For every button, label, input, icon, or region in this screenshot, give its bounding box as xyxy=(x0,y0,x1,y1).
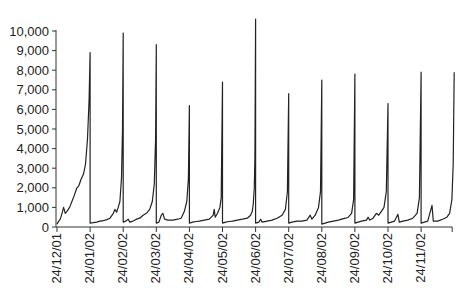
x-tick-label: 24/06/02 xyxy=(248,233,263,284)
y-tick-label: 3,000 xyxy=(16,161,49,176)
y-tick-label: 10,000 xyxy=(9,24,49,39)
y-tick-label: 2,000 xyxy=(16,180,49,195)
chart-svg: 01,0002,0003,0004,0005,0006,0007,0008,00… xyxy=(0,0,474,293)
x-tick-label: 24/04/02 xyxy=(181,233,196,284)
y-tick-label: 9,000 xyxy=(16,43,49,58)
y-tick-label: 7,000 xyxy=(16,82,49,97)
x-tick-label: 24/10/02 xyxy=(380,233,395,284)
y-tick-label: 0 xyxy=(42,220,49,235)
x-tick-label: 24/07/02 xyxy=(281,233,296,284)
x-tick-label: 24/03/02 xyxy=(148,233,163,284)
y-tick-label: 1,000 xyxy=(16,200,49,215)
x-tick-label: 24/11/02 xyxy=(413,233,428,283)
y-axis: 01,0002,0003,0004,0005,0006,0007,0008,00… xyxy=(9,24,56,235)
x-tick-label: 24/08/02 xyxy=(314,233,329,284)
x-tick-label: 24/09/02 xyxy=(347,233,362,284)
line-chart: 01,0002,0003,0004,0005,0006,0007,0008,00… xyxy=(0,0,474,293)
series-line xyxy=(57,19,454,224)
x-tick-label: 24/05/02 xyxy=(215,233,230,284)
y-tick-label: 6,000 xyxy=(16,102,49,117)
y-tick-label: 5,000 xyxy=(16,122,49,137)
x-tick-label: 24/01/02 xyxy=(82,233,97,284)
y-tick-label: 4,000 xyxy=(16,141,49,156)
x-tick-label: 24/02/02 xyxy=(115,233,130,284)
x-tick-label: 24/12/01 xyxy=(49,233,64,284)
x-axis: 24/12/0124/01/0224/02/0224/03/0224/04/02… xyxy=(49,227,452,284)
y-tick-label: 8,000 xyxy=(16,63,49,78)
